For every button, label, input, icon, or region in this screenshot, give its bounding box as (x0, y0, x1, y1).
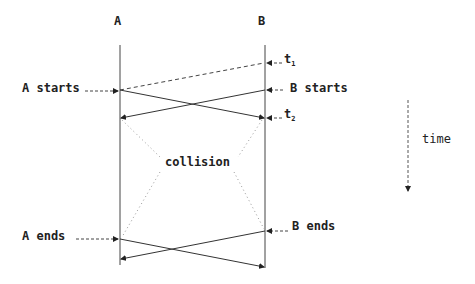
b-starts-label: B starts (290, 81, 348, 95)
b-end-signal-arrow (121, 231, 265, 259)
collision-dotted-lines (122, 120, 264, 237)
t1-label: t1 (284, 52, 295, 68)
timing-diagram: A B collision A starts A ends t1 B start… (0, 0, 475, 284)
b-ends-label: B ends (292, 219, 335, 233)
time-axis-label: time (422, 132, 451, 146)
t1-propagation-dashed-line (120, 63, 264, 90)
t2-label: t2 (284, 107, 295, 123)
station-b-label: B (258, 14, 265, 28)
collision-label: collision (165, 155, 230, 169)
a-ends-label: A ends (22, 229, 65, 243)
station-a-label: A (114, 14, 122, 28)
a-starts-label: A starts (22, 81, 80, 95)
a-end-signal-arrow (120, 239, 264, 267)
